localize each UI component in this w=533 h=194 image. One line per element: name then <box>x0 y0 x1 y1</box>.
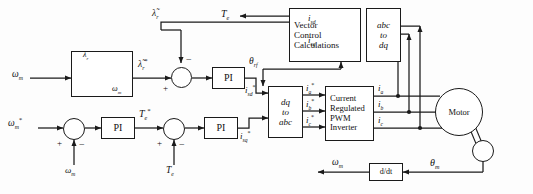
vector-control-calculations-block[interactable]: Vector Control Calculations <box>289 8 361 62</box>
label-te-reference: Te* <box>139 108 151 122</box>
inverter-line-4: Inverter <box>330 123 357 133</box>
abc-to-dq-transform-block[interactable]: abc to dq <box>366 8 401 62</box>
label-isd-feedback: isd <box>308 14 315 25</box>
dq-to-abc-line-2: to <box>282 107 289 117</box>
motor-label: Motor <box>448 107 469 117</box>
abc-to-dq-line-1: abc <box>377 20 390 30</box>
label-lambda-r-estimate: λ̃r <box>152 9 158 21</box>
label-ia-reference: ia* <box>306 82 314 95</box>
pi-torque-controller[interactable]: PI <box>204 117 238 139</box>
vector-control-line-3: Calculations <box>294 40 339 50</box>
wire-lambdar-estimate-bus <box>161 22 289 30</box>
label-omega-m-feedback: ωm <box>65 166 75 177</box>
label-ib-reference: ib* <box>306 98 314 111</box>
label-ib-measured: ib <box>378 100 383 111</box>
torque-junction-plus-sign: + <box>157 139 162 148</box>
speed-junction-plus-sign: + <box>57 139 62 148</box>
label-isq-feedback: isq <box>308 36 315 47</box>
pi-torque-label: PI <box>217 122 226 133</box>
dq-to-abc-transform-block[interactable]: dq to abc <box>268 86 303 138</box>
derivative-label: d/dt <box>380 168 392 177</box>
label-omega-m-flux-input: ωm <box>12 70 23 82</box>
pi-speed-label: PI <box>114 122 123 133</box>
label-flux-axis-lambda-r: λr <box>83 51 88 62</box>
motor-block[interactable]: Motor <box>435 88 483 136</box>
label-ic-measured: ic <box>378 116 383 127</box>
label-te-feedback: Te <box>166 166 174 178</box>
derivative-block[interactable]: d/dt <box>369 163 403 181</box>
label-te-estimate: Te <box>221 9 229 21</box>
torque-junction-minus-sign: − <box>179 140 185 150</box>
pi-speed-controller[interactable]: PI <box>101 117 135 139</box>
label-omega-m-output: ωm <box>332 158 343 170</box>
flux-summing-junction[interactable] <box>171 67 192 88</box>
speed-summing-junction[interactable] <box>63 118 85 140</box>
label-lambda-r-reference: λ̃r* <box>138 58 148 72</box>
label-isq-reference: isq* <box>240 130 251 143</box>
label-flux-axis-omega-m: ωm <box>112 85 121 96</box>
label-isd-reference: isd* <box>245 84 256 97</box>
dq-to-abc-line-3: abc <box>279 117 292 127</box>
abc-to-dq-line-3: dq <box>379 40 388 50</box>
pi-flux-label: PI <box>224 72 233 83</box>
torque-summing-junction[interactable] <box>163 118 185 140</box>
flux-schedule-block[interactable] <box>71 51 133 97</box>
current-regulated-pwm-inverter-block[interactable]: Current Regulated PWM Inverter <box>325 86 374 141</box>
label-theta-rf: θrf <box>249 57 258 69</box>
encoder-block[interactable] <box>472 140 494 162</box>
pi-flux-controller[interactable]: PI <box>212 67 245 89</box>
label-omega-m-reference: ωm* <box>8 117 22 131</box>
control-block-diagram: PI PI PI Vector Control Calculations abc… <box>0 0 533 194</box>
label-ic-reference: ic* <box>306 114 314 127</box>
dq-to-abc-line-1: dq <box>281 97 290 107</box>
label-theta-m: θm <box>430 158 439 170</box>
abc-to-dq-line-2: to <box>380 30 387 40</box>
flux-junction-minus-sign: − <box>186 55 192 65</box>
speed-junction-minus-sign: − <box>79 140 85 150</box>
label-ia-measured: ia <box>378 84 383 95</box>
flux-junction-plus-sign: + <box>163 84 168 93</box>
wire-pi-to-isqref <box>238 118 268 128</box>
